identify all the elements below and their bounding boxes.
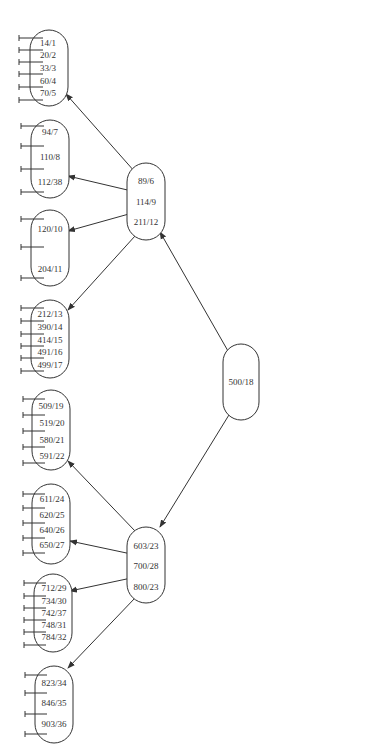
leaf-key: 509/19 xyxy=(38,401,64,411)
node-key: 500/18 xyxy=(228,377,254,387)
leaf-key: 846/35 xyxy=(41,698,67,708)
leaf-key: 611/24 xyxy=(40,494,65,504)
internal-node-left[interactable]: 89/6 114/9 211/12 xyxy=(127,163,165,240)
leaf-key: 491/16 xyxy=(37,347,63,357)
leaf-key: 212/13 xyxy=(37,309,63,319)
node-key: 700/28 xyxy=(133,561,159,571)
leaf-key: 580/21 xyxy=(39,435,64,445)
leaf-key: 734/30 xyxy=(41,596,67,606)
leaf-node-8[interactable]: 823/34 846/35 903/36 xyxy=(25,666,73,743)
edge-root-to-int-left xyxy=(160,232,232,358)
leaf-key: 94/7 xyxy=(42,127,59,137)
leaf-key: 120/10 xyxy=(37,224,63,234)
node-key: 800/23 xyxy=(133,582,159,592)
edge-int-right-to-leaf-5 xyxy=(68,461,135,531)
leaf-node-1[interactable]: 14/1 20/2 33/3 60/4 70/5 xyxy=(19,30,68,106)
leaf-node-4[interactable]: 212/13 390/14 414/15 491/16 499/17 xyxy=(21,300,69,378)
edge-int-right-to-leaf-8 xyxy=(68,598,135,668)
root-node[interactable]: 500/18 xyxy=(223,344,259,420)
leaf-key: 414/15 xyxy=(37,335,63,345)
edge-int-left-to-leaf-3 xyxy=(68,212,136,231)
leaf-key: 33/3 xyxy=(40,63,57,73)
edge-int-left-to-leaf-1 xyxy=(66,94,135,172)
leaf-key: 110/8 xyxy=(40,152,61,162)
node-key: 603/23 xyxy=(133,541,159,551)
leaf-node-3[interactable]: 120/10 204/11 xyxy=(21,210,69,286)
node-key: 89/6 xyxy=(138,176,155,186)
leaf-key: 903/36 xyxy=(41,719,67,729)
leaf-key: 650/27 xyxy=(39,540,65,550)
internal-node-right[interactable]: 603/23 700/28 800/23 xyxy=(127,527,165,603)
node-key: 114/9 xyxy=(136,197,157,207)
edge-int-left-to-leaf-4 xyxy=(68,236,135,310)
leaf-key: 823/34 xyxy=(41,678,67,688)
leaf-node-5[interactable]: 509/19 519/20 580/21 591/22 xyxy=(23,390,70,470)
leaf-key: 20/2 xyxy=(40,50,56,60)
leaf-node-6[interactable]: 611/24 620/25 640/26 650/27 xyxy=(23,484,70,564)
leaf-key: 784/32 xyxy=(41,632,66,642)
leaf-key: 748/31 xyxy=(41,620,66,630)
leaf-node-7[interactable]: 712/29 734/30 742/37 748/31 784/32 xyxy=(24,574,72,652)
leaf-key: 70/5 xyxy=(40,88,57,98)
leaf-key: 591/22 xyxy=(39,451,64,461)
b-plus-tree-diagram: 500/18 89/6 114/9 211/12 603/23 700/28 8… xyxy=(0,0,369,753)
edge-int-left-to-leaf-2 xyxy=(68,176,136,192)
edge-root-to-int-right xyxy=(160,410,232,527)
leaf-key: 620/25 xyxy=(39,510,65,520)
node-key: 211/12 xyxy=(134,217,159,227)
leaf-key: 112/38 xyxy=(38,177,63,187)
leaf-key: 390/14 xyxy=(37,322,63,332)
edge-int-right-to-leaf-7 xyxy=(70,577,136,591)
leaf-key: 640/26 xyxy=(39,525,65,535)
edge-int-right-to-leaf-6 xyxy=(70,541,136,555)
leaf-key: 204/11 xyxy=(38,264,63,274)
leaf-key: 712/29 xyxy=(41,583,67,593)
leaf-key: 519/20 xyxy=(39,418,65,428)
leaf-key: 60/4 xyxy=(40,76,57,86)
leaf-key: 742/37 xyxy=(41,608,67,618)
leaf-key: 499/17 xyxy=(37,360,63,370)
leaf-key: 14/1 xyxy=(40,38,56,48)
leaf-node-2[interactable]: 94/7 110/8 112/38 xyxy=(21,120,69,198)
